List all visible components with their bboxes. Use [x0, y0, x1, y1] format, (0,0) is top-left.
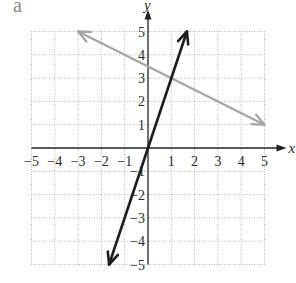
x-tick-label: −3 — [71, 154, 86, 169]
x-tick-label: 1 — [168, 154, 175, 169]
x-tick-label: 2 — [191, 154, 198, 169]
x-axis-label: x — [288, 140, 296, 156]
x-tick-label: −5 — [24, 154, 39, 169]
y-tick-label: 4 — [138, 48, 145, 63]
y-tick-label: 2 — [138, 94, 145, 109]
y-tick-label: −4 — [130, 234, 145, 249]
x-tick-label: 5 — [261, 154, 268, 169]
y-tick-label: 5 — [138, 25, 145, 40]
y-tick-label: 3 — [138, 71, 145, 86]
y-axis-label: y — [142, 0, 151, 13]
y-tick-label: −3 — [130, 211, 145, 226]
y-tick-label: 1 — [138, 118, 145, 133]
x-tick-label: 3 — [214, 154, 221, 169]
x-tick-label: −4 — [47, 154, 62, 169]
x-tick-label: −2 — [94, 154, 109, 169]
coordinate-plane: xy −5−4−3−2−11234554321−1−2−3−4−5 — [0, 0, 296, 283]
y-tick-label: −5 — [130, 258, 145, 273]
axes: xy — [32, 0, 296, 265]
x-tick-label: 4 — [238, 154, 245, 169]
x-axis-arrow-icon — [277, 145, 287, 152]
